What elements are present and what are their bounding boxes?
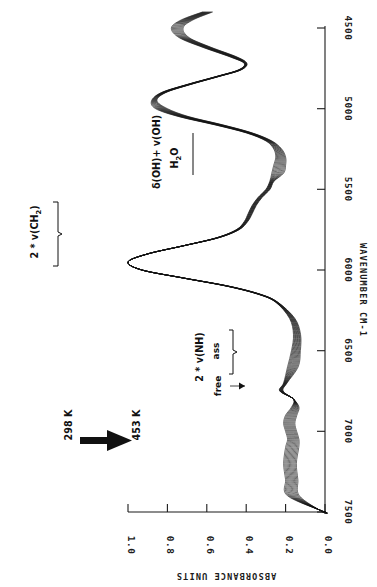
annotation-temp-start-label: 298 K [63, 409, 74, 440]
x-tick-label-4500: 4500 [343, 16, 354, 41]
y-tick-label-0-0: 0.0 [323, 536, 334, 555]
y-axis-ticks [128, 504, 325, 512]
annotation-nh-label: 2 * v(NH) [194, 332, 205, 381]
spectrum-trace [128, 12, 327, 513]
annotation-nh-associated: ass [211, 330, 237, 374]
annotation-nh-ass-label: ass [211, 343, 221, 360]
spectra-svg: 4500 5000 5500 6000 6500 7000 7500 WAVEN… [0, 0, 377, 587]
annotation-temperature-series: 298 K 453 K [63, 409, 142, 451]
nh-free-arrow-icon [230, 383, 245, 390]
annotation-water-label: H2O [169, 148, 183, 169]
spectrum-trace [128, 12, 326, 513]
temperature-arrow-icon [80, 430, 132, 451]
annotation-ch2: 2 * v(CH2) [29, 202, 62, 266]
x-tick-label-5000: 5000 [343, 96, 354, 121]
x-tick-label-6500: 6500 [343, 338, 354, 363]
y-tick-label-0-2: 0.2 [284, 536, 295, 555]
x-axis-ticks [317, 28, 325, 512]
y-tick-labels: 1.0 0.8 0.6 0.4 0.2 0.0 [126, 536, 334, 555]
x-tick-label-7500: 7500 [343, 500, 354, 525]
annotation-temp-end-label: 453 K [131, 409, 142, 440]
y-axis [128, 504, 325, 512]
annotation-nh-free-label: free [213, 376, 223, 397]
y-tick-label-1-0: 1.0 [126, 536, 137, 555]
y-tick-label-0-6: 0.6 [205, 536, 216, 555]
y-axis-title: ABSORBANCE UNITS [176, 571, 276, 581]
annotation-oh-combination-label: δ(OH)+ v(OH) [151, 115, 162, 189]
y-tick-label-0-8: 0.8 [165, 536, 176, 555]
x-axis-title: WAVENUMBER CM-1 [358, 243, 368, 337]
spectrum-trace [128, 12, 326, 513]
annotation-ch2-label: 2 * v(CH2) [29, 205, 43, 258]
spectrum-trace [128, 12, 327, 513]
spectra-figure: 4500 5000 5500 6000 6500 7000 7500 WAVEN… [0, 0, 377, 587]
x-tick-label-6000: 6000 [343, 258, 354, 283]
x-tick-label-7000: 7000 [343, 419, 354, 444]
annotation-nh-free: free [213, 376, 245, 397]
y-tick-label-0-4: 0.4 [244, 536, 255, 555]
x-tick-label-5500: 5500 [343, 177, 354, 202]
spectra-traces [128, 12, 328, 513]
x-axis [317, 26, 325, 512]
x-tick-labels: 4500 5000 5500 6000 6500 7000 7500 [343, 16, 354, 525]
